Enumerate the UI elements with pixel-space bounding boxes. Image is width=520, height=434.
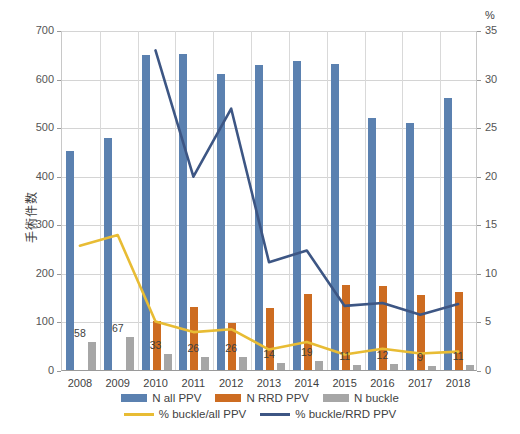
legend-row-bars: N all PPVN RRD PPVN buckle: [121, 392, 399, 404]
data-label-n-buckle: 9: [406, 351, 434, 363]
y2-axis-tick-mark: [477, 177, 481, 178]
legend-swatch-bar-icon: [215, 394, 241, 402]
y2-axis-tick-label: 20: [485, 170, 497, 182]
legend-item-line-1[interactable]: % buckle/RRD PPV: [260, 408, 396, 420]
y-axis-tick-mark: [57, 225, 61, 226]
y2-axis-tick-mark: [477, 128, 481, 129]
data-label-n-buckle: 19: [293, 346, 321, 358]
y-axis-tick-mark: [57, 177, 61, 178]
x-axis-tick-label: 2012: [212, 377, 250, 389]
legend-item-bar-1[interactable]: N RRD PPV: [215, 392, 309, 404]
y2-axis-tick-label: 10: [485, 267, 497, 279]
y-axis-tick-mark: [57, 322, 61, 323]
x-axis-tick-label: 2015: [326, 377, 364, 389]
legend-label: N all PPV: [152, 392, 201, 404]
y2-axis-tick-label: 30: [485, 73, 497, 85]
line--buckle-rrd-ppv: [156, 50, 459, 314]
legend-swatch-line-icon: [124, 413, 154, 416]
data-label-n-buckle: 26: [179, 342, 207, 354]
y-axis-tick-mark: [57, 371, 61, 372]
y-axis-tick-label: 700: [20, 24, 54, 36]
y2-axis-tick-mark: [477, 31, 481, 32]
chart-container: 手術件数 % N all PPVN RRD PPVN buckle % buck…: [0, 0, 520, 434]
legend-label: % buckle/RRD PPV: [295, 408, 396, 420]
legend-item-bar-0[interactable]: N all PPV: [121, 392, 201, 404]
y-axis-tick-label: 0: [20, 364, 54, 376]
y2-axis-tick-label: 0: [485, 364, 491, 376]
x-axis-tick-label: 2017: [401, 377, 439, 389]
legend-item-line-0[interactable]: % buckle/all PPV: [124, 408, 247, 420]
data-label-n-buckle: 67: [104, 322, 132, 334]
y2-axis-tick-label: 35: [485, 24, 497, 36]
y2-axis-tick-mark: [477, 80, 481, 81]
legend-row-lines: % buckle/all PPV% buckle/RRD PPV: [124, 408, 397, 420]
data-label-n-buckle: 12: [368, 349, 396, 361]
y-axis-tick-label: 500: [20, 121, 54, 133]
y2-axis-tick-mark: [477, 274, 481, 275]
y-axis-tick-label: 400: [20, 170, 54, 182]
legend-swatch-bar-icon: [323, 394, 349, 402]
y2-axis-tick-mark: [477, 225, 481, 226]
data-label-n-buckle: 26: [217, 342, 245, 354]
data-label-n-buckle: 11: [444, 350, 472, 362]
y2-axis-tick-label: 15: [485, 218, 497, 230]
x-axis-tick-label: 2014: [288, 377, 326, 389]
y2-axis-tick-label: 25: [485, 121, 497, 133]
legend-item-bar-2[interactable]: N buckle: [323, 392, 399, 404]
series-line-overlay: [0, 0, 520, 434]
legend-swatch-bar-icon: [121, 394, 147, 402]
y-axis-tick-mark: [57, 128, 61, 129]
x-axis-tick-label: 2016: [364, 377, 402, 389]
y2-axis-tick-label: 5: [485, 315, 491, 327]
y-axis-tick-label: 300: [20, 218, 54, 230]
x-axis-tick-label: 2013: [250, 377, 288, 389]
y-axis-tick-label: 600: [20, 73, 54, 85]
chart-legend: N all PPVN RRD PPVN buckle % buckle/all …: [0, 392, 520, 420]
x-axis-tick-label: 2008: [61, 377, 99, 389]
y-axis-tick-mark: [57, 274, 61, 275]
data-label-n-buckle: 58: [66, 327, 94, 339]
data-label-n-buckle: 11: [331, 350, 359, 362]
y-axis-tick-label: 200: [20, 267, 54, 279]
x-axis-tick-label: 2010: [137, 377, 175, 389]
y-axis-tick-mark: [57, 80, 61, 81]
legend-label: N RRD PPV: [246, 392, 309, 404]
x-axis-tick-label: 2009: [99, 377, 137, 389]
y2-axis-tick-mark: [477, 371, 481, 372]
legend-label: % buckle/all PPV: [159, 408, 247, 420]
x-axis-tick-label: 2018: [439, 377, 477, 389]
x-axis-tick-label: 2011: [174, 377, 212, 389]
y-axis-tick-label: 100: [20, 315, 54, 327]
y-axis-tick-mark: [57, 31, 61, 32]
line--buckle-all-ppv: [80, 235, 458, 355]
data-label-n-buckle: 33: [142, 339, 170, 351]
legend-swatch-line-icon: [260, 413, 290, 416]
y2-axis-tick-mark: [477, 322, 481, 323]
data-label-n-buckle: 14: [255, 348, 283, 360]
legend-label: N buckle: [354, 392, 399, 404]
